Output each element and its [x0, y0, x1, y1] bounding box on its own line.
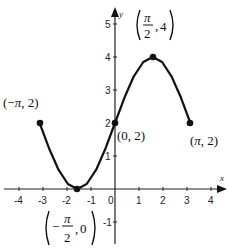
svg-text:2: 2: [64, 230, 71, 245]
x-tick-label: -4: [14, 195, 23, 206]
x-tick-label: 2: [160, 195, 166, 206]
label-half-pi: π 2 , 4: [137, 10, 173, 41]
y-tick-label: -1: [103, 217, 112, 228]
y-tick-label: 4: [105, 52, 111, 63]
x-axis-arrow-icon: [217, 185, 227, 193]
x-tick-label: 1: [136, 195, 142, 206]
svg-text:,: ,: [155, 18, 158, 33]
label-neg-half-pi: − π 2 , 0: [46, 211, 95, 245]
y-tick-label: 1: [105, 151, 111, 162]
x-tick-label: 3: [184, 195, 190, 206]
x-tick-label: -3: [38, 195, 47, 206]
point-pi: [187, 120, 194, 127]
label-pi: (π, 2): [190, 133, 218, 148]
label-neg-pi: (−π, 2): [3, 95, 39, 110]
svg-text:0: 0: [80, 221, 87, 236]
svg-text:π: π: [144, 10, 151, 25]
svg-text:,: ,: [75, 221, 78, 236]
x-tick-label: -1: [87, 195, 96, 206]
point-neg-half-pi: [74, 186, 81, 193]
x-tick-label: 4: [208, 195, 214, 206]
svg-text:π: π: [64, 211, 71, 226]
plot-svg: -4 -3 -2 -1 0 1 2 3 4 -1 1 2 3 4 5 x y (…: [0, 0, 228, 249]
y-tick-label: 5: [105, 19, 111, 30]
svg-text:2: 2: [144, 26, 151, 41]
y-axis-label: y: [118, 9, 123, 19]
point-zero: [112, 120, 119, 127]
svg-text:4: 4: [160, 19, 167, 34]
x-tick-label: 0: [108, 195, 114, 206]
y-axis-arrow-icon: [111, 7, 119, 17]
point-half-pi: [150, 54, 157, 61]
label-zero: (0, 2): [117, 128, 145, 143]
chart: -4 -3 -2 -1 0 1 2 3 4 -1 1 2 3 4 5 x y (…: [0, 0, 228, 249]
point-neg-pi: [37, 120, 44, 127]
x-axis-label: x: [219, 173, 224, 183]
x-tick-label: -2: [62, 195, 71, 206]
svg-text:−: −: [52, 219, 59, 234]
y-tick-label: 3: [105, 85, 111, 96]
y-tick-label: 2: [105, 118, 111, 129]
